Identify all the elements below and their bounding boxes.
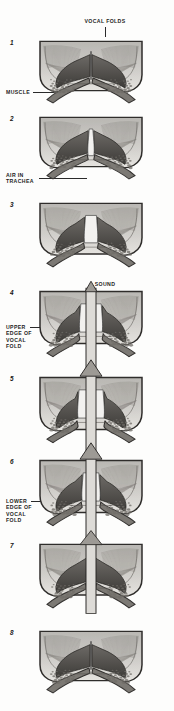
larynx-cross-section-7: [31, 541, 151, 613]
label-air-in-trachea: AIR IN TRACHEA: [6, 172, 34, 185]
label-upper-edge-of-vocal-fold: UPPER EDGE OF VOCAL FOLD: [6, 324, 32, 350]
panel-number-8: 8: [10, 629, 14, 636]
larynx-cross-section-3: [31, 200, 151, 272]
figure-canvas: VOCAL FOLDS MUSCLE AIR IN TRACHEA SOUND …: [0, 0, 174, 711]
panel-5: [31, 374, 151, 448]
label-sound: SOUND: [52, 281, 158, 287]
panel-number-2: 2: [10, 115, 14, 122]
panel-6: [31, 457, 151, 531]
label-vocal-folds: VOCAL FOLDS: [52, 18, 158, 24]
panel-number-6: 6: [10, 458, 14, 465]
label-lower-edge-of-vocal-fold: LOWER EDGE OF VOCAL FOLD: [6, 498, 32, 524]
panel-2: [31, 114, 151, 184]
larynx-cross-section-2: [31, 114, 151, 184]
leader-vocal-folds: [105, 27, 106, 37]
panel-number-7: 7: [10, 542, 14, 549]
label-muscle: MUSCLE: [6, 89, 30, 95]
panel-7: [31, 541, 151, 613]
panel-8: [31, 628, 151, 698]
panel-3: [31, 200, 151, 272]
larynx-cross-section-1: [31, 38, 151, 108]
panel-number-4: 4: [10, 289, 14, 296]
panel-4: [31, 288, 151, 362]
larynx-cross-section-6: [31, 457, 151, 531]
larynx-cross-section-5: [31, 374, 151, 448]
panel-number-1: 1: [10, 39, 14, 46]
panel-number-5: 5: [10, 375, 14, 382]
panel-number-3: 3: [10, 201, 14, 208]
larynx-cross-section-4: [31, 288, 151, 362]
panel-1: [31, 38, 151, 108]
larynx-cross-section-8: [31, 628, 151, 698]
